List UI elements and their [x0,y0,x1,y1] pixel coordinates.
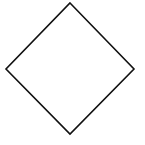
diagram-svg [0,0,145,145]
diagram-canvas [0,0,145,145]
diamond-shape [6,3,134,134]
